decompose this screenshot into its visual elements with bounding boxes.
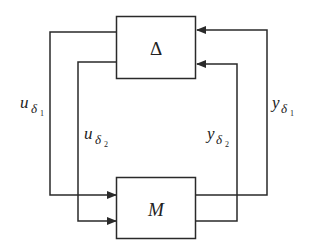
delta-block: Δ bbox=[117, 17, 196, 79]
label-u-delta2: u δ 2 bbox=[84, 124, 108, 149]
label-y-delta1: y δ 1 bbox=[270, 93, 294, 118]
svg-text:1: 1 bbox=[40, 109, 44, 118]
svg-text:δ: δ bbox=[216, 132, 223, 147]
svg-text:δ: δ bbox=[31, 101, 38, 116]
svg-text:1: 1 bbox=[290, 109, 294, 118]
label-y-delta2: y δ 2 bbox=[205, 124, 229, 149]
svg-text:y: y bbox=[205, 124, 215, 143]
label-u-delta1: u δ 1 bbox=[20, 93, 44, 118]
signal-y-delta1-line bbox=[196, 30, 267, 195]
svg-text:y: y bbox=[270, 93, 280, 112]
feedback-diagram: Δ M u δ 1 u δ 2 y δ 1 y δ 2 bbox=[0, 0, 315, 251]
svg-text:2: 2 bbox=[225, 140, 229, 149]
svg-text:δ: δ bbox=[281, 101, 288, 116]
svg-text:u: u bbox=[20, 93, 29, 112]
svg-text:δ: δ bbox=[95, 132, 102, 147]
delta-label: Δ bbox=[150, 38, 162, 59]
svg-text:u: u bbox=[84, 124, 93, 143]
svg-text:2: 2 bbox=[104, 140, 108, 149]
m-label: M bbox=[147, 199, 165, 220]
signal-u-delta1-line bbox=[50, 32, 116, 195]
m-block: M bbox=[117, 178, 196, 239]
